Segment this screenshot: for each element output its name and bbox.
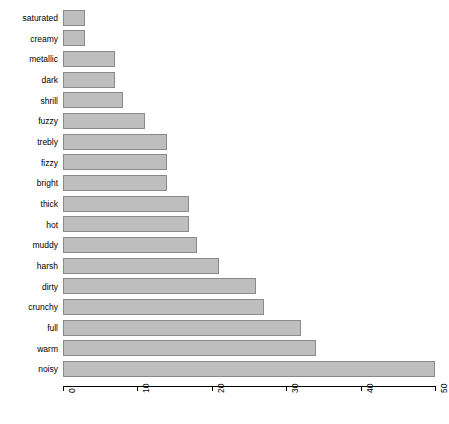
x-tick-label: 0 <box>67 388 77 393</box>
bar-row <box>63 235 435 256</box>
plot-area <box>63 8 435 380</box>
x-tick-label: 10 <box>141 384 151 393</box>
category-label: trebly <box>2 132 58 153</box>
category-axis-labels: saturatedcreamymetallicdarkshrillfuzzytr… <box>0 8 58 380</box>
x-tick-label: 20 <box>216 384 226 393</box>
bar-row <box>63 173 435 194</box>
bar-row <box>63 318 435 339</box>
bar-row <box>63 297 435 318</box>
bar <box>63 30 85 46</box>
category-label: metallic <box>2 49 58 70</box>
bar-row <box>63 132 435 153</box>
x-tick-mark <box>137 386 138 391</box>
category-label: saturated <box>2 8 58 29</box>
bar-row <box>63 91 435 112</box>
category-label: shrill <box>2 91 58 112</box>
bar <box>63 196 189 212</box>
bar <box>63 10 85 26</box>
x-tick-mark <box>435 386 436 391</box>
category-label: fizzy <box>2 153 58 174</box>
category-label: harsh <box>2 256 58 277</box>
bar <box>63 51 115 67</box>
bar <box>63 154 167 170</box>
bar <box>63 278 256 294</box>
bar <box>63 113 145 129</box>
bar <box>63 361 435 377</box>
bar-row <box>63 359 435 380</box>
bar-row <box>63 29 435 50</box>
x-axis-line <box>63 386 435 387</box>
x-tick-label: 30 <box>290 384 300 393</box>
bar-row <box>63 49 435 70</box>
bar <box>63 216 189 232</box>
category-label: creamy <box>2 29 58 50</box>
category-label: warm <box>2 339 58 360</box>
x-tick-mark <box>286 386 287 391</box>
bar <box>63 340 316 356</box>
bar <box>63 299 264 315</box>
bar-row <box>63 256 435 277</box>
bar-row <box>63 70 435 91</box>
category-label: full <box>2 318 58 339</box>
category-label: noisy <box>2 359 58 380</box>
category-label: hot <box>2 215 58 236</box>
bar-row <box>63 153 435 174</box>
x-tick-mark <box>63 386 64 391</box>
bar <box>63 134 167 150</box>
x-tick-mark <box>361 386 362 391</box>
bar-row <box>63 277 435 298</box>
bar <box>63 320 301 336</box>
bar-row <box>63 194 435 215</box>
bar <box>63 92 123 108</box>
category-label: dirty <box>2 277 58 298</box>
category-label: thick <box>2 194 58 215</box>
category-label: dark <box>2 70 58 91</box>
bar-row <box>63 8 435 29</box>
x-tick-label: 50 <box>439 384 449 393</box>
category-label: muddy <box>2 235 58 256</box>
bar <box>63 72 115 88</box>
bar-row <box>63 215 435 236</box>
bar <box>63 237 197 253</box>
bar-row <box>63 339 435 360</box>
bar <box>63 175 167 191</box>
category-label: crunchy <box>2 297 58 318</box>
x-tick-mark <box>212 386 213 391</box>
bar-row <box>63 111 435 132</box>
x-tick-label: 40 <box>365 384 375 393</box>
category-label: bright <box>2 173 58 194</box>
category-label: fuzzy <box>2 111 58 132</box>
bar <box>63 258 219 274</box>
